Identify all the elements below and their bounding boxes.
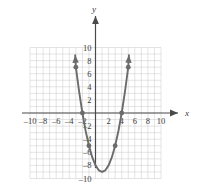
data-point [126,65,131,70]
x-tick-label: 6 [133,116,137,126]
data-point [87,143,92,148]
y-tick-label: 6 [87,69,91,79]
graph-figure: –10–8–6–4–2246810 108642–2–4–6–8–10 x y [0,0,203,191]
data-point [80,111,85,116]
chart-background [0,0,203,191]
x-axis-label: x [184,108,189,118]
x-tick-label: 2 [106,116,110,126]
x-tick-label: –4 [64,116,74,126]
coordinate-plane-chart: –10–8–6–4–2246810 108642–2–4–6–8–10 x y [0,0,203,191]
data-point [119,111,124,116]
y-tick-label: 8 [87,56,91,66]
data-point [73,65,78,70]
y-tick-label: 10 [83,43,92,53]
x-tick-label: –10 [23,116,37,126]
y-tick-label: –10 [78,174,92,184]
data-point [113,143,118,148]
x-tick-label: 10 [157,116,166,126]
y-tick-label: 2 [87,95,91,105]
y-axis-label: y [91,4,96,14]
y-tick-label: –8 [82,160,92,170]
x-tick-label: 8 [146,116,150,126]
x-tick-label: –8 [38,116,48,126]
x-tick-label: –6 [51,116,61,126]
